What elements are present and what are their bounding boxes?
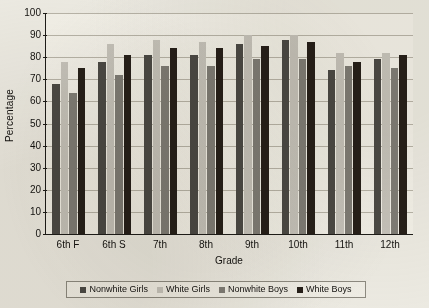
x-axis-tick-label: 9th (229, 238, 275, 252)
bar (144, 55, 152, 234)
bar-group (46, 13, 92, 234)
y-axis-tick-mark (43, 234, 47, 235)
bar (236, 44, 244, 234)
x-axis-tick-label: 12th (367, 238, 413, 252)
bar (52, 84, 60, 234)
y-axis-tick-label: 100 (24, 8, 41, 18)
x-axis-title: Grade (45, 255, 413, 266)
bar-group (275, 13, 321, 234)
bar (382, 53, 390, 234)
bar-group (92, 13, 138, 234)
bar-group (184, 13, 230, 234)
x-axis-tick-label: 7th (137, 238, 183, 252)
bar (207, 66, 215, 234)
x-axis-tick-label: 11th (321, 238, 367, 252)
bar (98, 62, 106, 234)
plot-area: 0102030405060708090100 (45, 13, 413, 235)
legend-item[interactable]: Nonwhite Girls (80, 285, 148, 294)
y-axis-title-label: Percentage (5, 88, 16, 141)
legend-item[interactable]: White Boys (297, 285, 352, 294)
y-axis-tick-label: 0 (35, 229, 41, 239)
legend-item[interactable]: White Girls (157, 285, 210, 294)
bar (61, 62, 69, 234)
y-axis-title: Percentage (2, 50, 18, 180)
y-axis-tick-label: 20 (30, 185, 41, 195)
bar (399, 55, 407, 234)
bar (328, 70, 336, 234)
bar (391, 68, 399, 234)
bar (345, 66, 353, 234)
bar (78, 68, 86, 234)
y-axis-tick-label: 60 (30, 96, 41, 106)
bar (253, 59, 261, 234)
y-axis-tick-label: 10 (30, 207, 41, 217)
bar (124, 55, 132, 234)
bar (161, 66, 169, 234)
bar (261, 46, 269, 234)
bar-group (230, 13, 276, 234)
bar-group (321, 13, 367, 234)
bar (336, 53, 344, 234)
x-axis-tick-labels: 6th F6th S7th8th9th10th11th12th (45, 238, 413, 252)
legend-swatch-icon (80, 287, 86, 293)
y-axis-tick-label: 30 (30, 163, 41, 173)
chart-legend: Nonwhite GirlsWhite GirlsNonwhite BoysWh… (66, 281, 366, 298)
bar (290, 35, 298, 234)
bar (69, 93, 77, 234)
y-axis-tick-label: 80 (30, 52, 41, 62)
bar (244, 35, 252, 234)
bar (190, 55, 198, 234)
bar (115, 75, 123, 234)
x-axis-tick-label: 8th (183, 238, 229, 252)
legend-swatch-icon (297, 287, 303, 293)
legend-swatch-icon (219, 287, 225, 293)
y-axis-tick-label: 50 (30, 119, 41, 129)
legend-swatch-icon (157, 287, 163, 293)
legend-item[interactable]: Nonwhite Boys (219, 285, 288, 294)
bar (170, 48, 178, 234)
bar-group (367, 13, 413, 234)
x-axis-tick-label: 6th F (45, 238, 91, 252)
legend-label: White Boys (306, 285, 352, 294)
x-axis-tick-label: 10th (275, 238, 321, 252)
bar (107, 44, 115, 234)
bar-group (138, 13, 184, 234)
bar (307, 42, 315, 234)
x-axis-tick-label: 6th S (91, 238, 137, 252)
y-axis-tick-label: 70 (30, 74, 41, 84)
bar (282, 40, 290, 234)
y-axis-tick-label: 40 (30, 141, 41, 151)
bar (199, 42, 207, 234)
bar (353, 62, 361, 234)
bar (153, 40, 161, 234)
bar-chart: Percentage 0102030405060708090100 6th F6… (0, 0, 429, 308)
y-axis-tick-label: 90 (30, 30, 41, 40)
bar (374, 59, 382, 234)
bar (216, 48, 224, 234)
bar-groups (46, 13, 413, 234)
legend-label: Nonwhite Girls (89, 285, 148, 294)
bar (299, 59, 307, 234)
legend-label: White Girls (166, 285, 210, 294)
legend-label: Nonwhite Boys (228, 285, 288, 294)
